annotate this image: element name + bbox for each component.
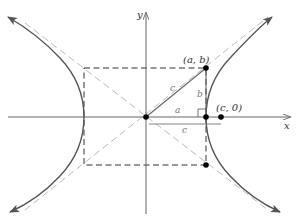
point-a-b-label: (a, b) [183, 54, 210, 65]
point-origin [143, 114, 149, 120]
hyperbola-right-branch-lower [206, 117, 280, 212]
hyperbola-left-branch-upper [8, 17, 84, 117]
y-axis-label: y [136, 9, 143, 20]
point-c-0 [218, 114, 224, 120]
hyperbola-left-branch-lower [10, 117, 84, 212]
point-c-0-label: (c, 0) [216, 102, 242, 113]
x-axis-label: x [284, 120, 290, 131]
horizontal-leg-label: a [175, 105, 180, 115]
vertical-leg-label: b [197, 89, 203, 99]
point-vertex [203, 114, 209, 120]
hypotenuse-label: c [170, 83, 175, 93]
point-a-b [203, 65, 209, 71]
bracket-c-label: c [182, 125, 187, 135]
hyperbola-diagram: x y c b a c (a, b) (c, 0) [0, 0, 299, 223]
point-rect-corner [203, 162, 209, 168]
